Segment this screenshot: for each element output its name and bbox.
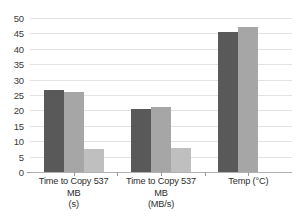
bar-series-1 [218,32,238,172]
x-axis-labels: Time to Copy 537 MB(s)Time to Copy 537 M… [30,176,292,216]
y-axis-tick-label: 35 [14,59,24,70]
x-axis-category-text: Temp (°C) [228,176,268,186]
bar-group [30,18,117,172]
bar-series-1 [44,90,64,172]
bar-group [205,18,292,172]
y-axis-tick-label: 0 [19,167,24,178]
bar-chart: 50454035302520151050 Time to Copy 537 MB… [0,0,305,216]
y-axis-tick-label: 45 [14,28,24,39]
x-axis-category-text: Time to Copy 537 MB [126,176,196,198]
y-axis-tick-label: 40 [14,43,24,54]
y-axis-tick-label: 50 [14,13,24,24]
x-axis-category-label: Temp (°C) [205,176,292,216]
y-axis-tick-label: 25 [14,90,24,101]
bar-groups [30,18,292,172]
y-axis-tick-label: 20 [14,105,24,116]
bar-series-3 [84,149,104,172]
y-axis: 50454035302520151050 [0,0,28,216]
y-axis-tick-label: 5 [19,151,24,162]
x-axis-category-text: Time to Copy 537 MB [39,176,109,198]
y-axis-tick-label: 15 [14,120,24,131]
x-axis-category-unit: (s) [31,199,116,211]
y-axis-zero-tick [27,172,30,173]
bar-series-3 [171,148,191,172]
bar-series-1 [131,109,151,172]
bar-series-2 [238,27,258,172]
y-axis-tick-label: 30 [14,74,24,85]
bar-series-2 [64,92,84,172]
y-axis-tick-label: 10 [14,136,24,147]
x-axis-category-unit: (MB/s) [118,199,203,211]
x-axis-category-label: Time to Copy 537 MB(MB/s) [117,176,204,216]
bar-group [117,18,204,172]
x-axis-category-label: Time to Copy 537 MB(s) [30,176,117,216]
bar-series-2 [151,107,171,172]
